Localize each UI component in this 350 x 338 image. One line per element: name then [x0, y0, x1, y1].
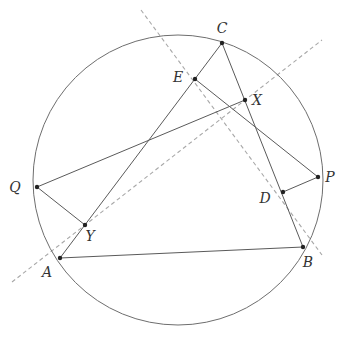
- point-x: [243, 98, 247, 102]
- geometry-diagram: CEXPDBAQY: [0, 0, 350, 338]
- label-d: D: [258, 190, 270, 206]
- point-d: [281, 190, 285, 194]
- label-x: X: [251, 92, 263, 108]
- point-c: [220, 41, 224, 45]
- segment-qx: [37, 100, 245, 187]
- point-a: [58, 256, 62, 260]
- label-c: C: [217, 20, 228, 36]
- label-q: Q: [9, 179, 21, 195]
- point-p: [316, 175, 320, 179]
- point-q: [35, 185, 39, 189]
- label-p: P: [324, 169, 335, 185]
- point-e: [193, 77, 197, 81]
- label-b: B: [302, 254, 313, 270]
- label-e: E: [172, 69, 183, 85]
- point-labels: CEXPDBAQY: [9, 20, 335, 280]
- point-y: [83, 223, 87, 227]
- segment-qy: [37, 187, 85, 225]
- segment-bc: [222, 43, 303, 247]
- segment-pd: [283, 177, 318, 192]
- segment-ab: [60, 247, 303, 258]
- label-a: A: [40, 264, 52, 280]
- dashed-line-2: [12, 40, 322, 282]
- dashed-lines: [12, 10, 322, 282]
- label-y: Y: [85, 228, 96, 244]
- point-b: [301, 245, 305, 249]
